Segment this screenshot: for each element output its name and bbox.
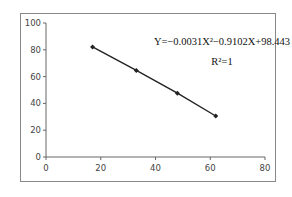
data-point-marker [90,44,95,49]
y-tick-label: 80 [30,45,41,55]
x-tick-label: 80 [260,163,271,173]
x-tick-label: 20 [95,163,106,173]
r-squared-text: R²=1 [211,56,232,67]
y-tick-label: 0 [36,152,41,162]
chart-svg: 020406080100020406080 Y=−0.0031X²−0.9102… [0,0,292,197]
x-tick-label: 60 [205,163,216,173]
y-tick-label: 100 [25,18,41,28]
equation-text: Y=−0.0031X²−0.9102X+98.443 [154,36,290,47]
x-tick-label: 40 [150,163,161,173]
y-tick-label: 40 [30,98,41,108]
y-tick-label: 20 [30,125,41,135]
x-tick-label: 0 [43,163,48,173]
y-tick-label: 60 [30,72,41,82]
data-series [90,44,218,118]
series-line [93,47,216,116]
